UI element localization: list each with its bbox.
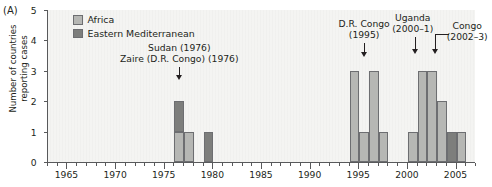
bar-segment bbox=[457, 132, 467, 162]
arrow-head bbox=[176, 75, 182, 80]
x-tick-minor bbox=[76, 163, 77, 166]
bar-segment bbox=[174, 132, 184, 162]
arrow-shaft bbox=[435, 39, 436, 49]
x-tick-major bbox=[66, 163, 67, 169]
bar-segment bbox=[437, 101, 447, 162]
x-tick-minor bbox=[368, 163, 369, 166]
y-tick: 4 bbox=[44, 40, 49, 41]
x-tick-minor bbox=[144, 163, 145, 166]
x-tick-minor bbox=[349, 163, 350, 166]
y-tick: 3 bbox=[44, 71, 49, 72]
x-tick-major bbox=[261, 163, 262, 169]
annotation-sudan-zaire-1976: Sudan (1976)Zaire (D.R. Congo) (1976) bbox=[104, 43, 254, 64]
x-tick-minor bbox=[57, 163, 58, 166]
x-tick-minor bbox=[173, 163, 174, 166]
x-tick-major bbox=[358, 163, 359, 169]
x-tick-major bbox=[164, 163, 165, 169]
x-tick-label: 1985 bbox=[249, 170, 272, 179]
y-tick-label: 2 bbox=[31, 98, 37, 107]
x-tick-minor bbox=[290, 163, 291, 166]
y-tick: 2 bbox=[44, 101, 49, 102]
x-tick-minor bbox=[426, 163, 427, 166]
arrow-shaft bbox=[415, 37, 416, 49]
legend-swatch-africa bbox=[73, 15, 83, 25]
arrow-head bbox=[361, 52, 367, 57]
x-tick-minor bbox=[222, 163, 223, 166]
legend-item-emed: Eastern Mediterranean bbox=[73, 28, 195, 40]
x-tick-major bbox=[407, 163, 408, 169]
x-tick-label: 1980 bbox=[201, 170, 224, 179]
arrow-shaft bbox=[364, 43, 365, 52]
x-tick-minor bbox=[242, 163, 243, 166]
bar-segment bbox=[359, 132, 369, 162]
plot-area: 012345 Sudan (1976)Zaire (D.R. Congo) (1… bbox=[47, 10, 475, 162]
x-tick-minor bbox=[339, 163, 340, 166]
y-axis-title: Number of countries reporting cases bbox=[8, 0, 29, 139]
x-tick-minor bbox=[378, 163, 379, 166]
x-tick-label: 2005 bbox=[444, 170, 467, 179]
x-tick-minor bbox=[105, 163, 106, 166]
y-tick-label: 0 bbox=[31, 158, 37, 167]
x-tick-minor bbox=[397, 163, 398, 166]
x-tick-minor bbox=[475, 163, 476, 166]
y-tick-label: 1 bbox=[31, 128, 37, 137]
x-tick-minor bbox=[465, 163, 466, 166]
bar-segment bbox=[418, 71, 428, 162]
x-tick-minor bbox=[47, 163, 48, 166]
x-tick-major bbox=[212, 163, 213, 169]
arrow-head bbox=[412, 49, 418, 54]
x-tick-minor bbox=[232, 163, 233, 166]
y-axis-title-line1: Number of countries bbox=[8, 0, 19, 139]
congo-elbow-connector bbox=[435, 34, 449, 39]
x-tick-minor bbox=[193, 163, 194, 166]
x-tick-label: 1995 bbox=[347, 170, 370, 179]
bar-segment bbox=[369, 71, 379, 162]
x-tick-minor bbox=[125, 163, 126, 166]
bar-segment bbox=[204, 132, 214, 162]
chart-legend: AfricaEastern Mediterranean bbox=[73, 14, 195, 41]
x-tick-label: 2000 bbox=[395, 170, 418, 179]
x-tick-minor bbox=[154, 163, 155, 166]
x-tick-major bbox=[115, 163, 116, 169]
x-tick-label: 1970 bbox=[103, 170, 126, 179]
x-tick-minor bbox=[280, 163, 281, 166]
annotation-line2: Zaire (D.R. Congo) (1976) bbox=[104, 54, 254, 65]
y-tick-label: 5 bbox=[31, 6, 37, 15]
x-tick-minor bbox=[446, 163, 447, 166]
x-tick-minor bbox=[436, 163, 437, 166]
x-tick-minor bbox=[319, 163, 320, 166]
y-tick: 5 bbox=[44, 10, 49, 11]
bar-segment bbox=[184, 132, 194, 162]
bar-segment bbox=[427, 71, 437, 162]
x-tick-minor bbox=[387, 163, 388, 166]
x-tick-minor bbox=[251, 163, 252, 166]
x-tick-major bbox=[310, 163, 311, 169]
y-tick-label: 3 bbox=[31, 67, 37, 76]
annotation-line1: Sudan (1976) bbox=[104, 43, 254, 54]
y-axis-title-line2: reporting cases bbox=[18, 0, 29, 139]
x-tick-major bbox=[456, 163, 457, 169]
x-tick-minor bbox=[300, 163, 301, 166]
x-tick-minor bbox=[135, 163, 136, 166]
arrow-head bbox=[432, 49, 438, 54]
annotation-congo-2002-3: Congo(2002–3) bbox=[434, 21, 492, 42]
legend-label-africa: Africa bbox=[88, 15, 115, 24]
x-tick-minor bbox=[183, 163, 184, 166]
arrow-shaft bbox=[179, 67, 180, 75]
x-tick-minor bbox=[417, 163, 418, 166]
legend-label-emed: Eastern Mediterranean bbox=[88, 29, 195, 38]
y-tick: 1 bbox=[44, 132, 49, 133]
x-tick-minor bbox=[203, 163, 204, 166]
x-tick-label: 1975 bbox=[152, 170, 175, 179]
x-tick-label: 1990 bbox=[298, 170, 321, 179]
legend-item-africa: Africa bbox=[73, 14, 195, 26]
bar-segment bbox=[408, 132, 418, 162]
bar-segment bbox=[174, 101, 184, 131]
y-tick-label: 4 bbox=[31, 37, 37, 46]
x-tick-minor bbox=[271, 163, 272, 166]
x-tick-minor bbox=[96, 163, 97, 166]
x-tick-minor bbox=[86, 163, 87, 166]
annotation-line1: Congo bbox=[434, 21, 492, 32]
bar-segment bbox=[379, 132, 389, 162]
